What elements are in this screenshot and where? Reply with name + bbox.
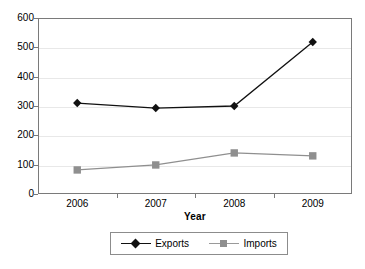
y-axis-tick-mark — [34, 165, 38, 166]
x-axis-tick-label: 2009 — [283, 198, 343, 210]
y-axis-tick-mark — [34, 106, 38, 107]
x-axis-tick-label: 2007 — [126, 198, 186, 210]
y-axis-tick-mark — [34, 47, 38, 48]
x-axis-tick-mark — [274, 194, 275, 198]
legend-entry-imports[interactable]: Imports — [209, 238, 276, 249]
legend-swatch-imports — [209, 238, 239, 249]
x-axis-tick-mark — [117, 194, 118, 198]
line-chart: 0100200300400500600 2006200720082009 Yea… — [0, 0, 365, 269]
y-axis-tick-label: 0 — [0, 189, 34, 199]
x-axis-tick-label: 2006 — [47, 198, 107, 210]
x-axis-tick-label: 2008 — [204, 198, 264, 210]
legend-entry-exports[interactable]: Exports — [121, 238, 189, 249]
y-axis-labels: 0100200300400500600 — [0, 18, 34, 194]
y-axis-tick-label: 100 — [0, 160, 34, 170]
legend-label-exports: Exports — [155, 238, 189, 249]
chart-legend: Exports Imports — [110, 232, 288, 255]
gridline — [39, 48, 351, 49]
gridline — [39, 107, 351, 108]
y-axis-tick-mark — [34, 194, 38, 195]
x-axis-labels: 2006200720082009 — [38, 198, 352, 212]
y-axis-tick-label: 500 — [0, 42, 34, 52]
gridline — [39, 78, 351, 79]
y-axis-tick-mark — [34, 77, 38, 78]
y-axis-tick-label: 600 — [0, 13, 34, 23]
x-axis-title: Year — [38, 211, 352, 222]
y-axis-tick-label: 200 — [0, 130, 34, 140]
gridline — [39, 136, 351, 137]
y-axis-tick-label: 400 — [0, 72, 34, 82]
legend-swatch-exports — [121, 238, 151, 249]
plot-area — [38, 18, 352, 194]
legend-marker-square-icon — [220, 240, 227, 247]
x-axis-tick-mark — [195, 194, 196, 198]
legend-marker-diamond-icon — [131, 239, 141, 249]
y-axis-tick-mark — [34, 18, 38, 19]
legend-label-imports: Imports — [243, 238, 276, 249]
y-axis-tick-label: 300 — [0, 101, 34, 111]
y-axis-tick-mark — [34, 135, 38, 136]
gridline — [39, 166, 351, 167]
